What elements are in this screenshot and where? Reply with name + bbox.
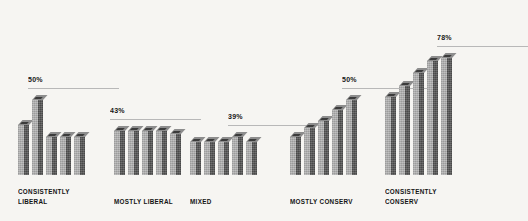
bar-right-face (162, 131, 167, 175)
bar-right-face (24, 125, 29, 175)
bar-right-face (405, 86, 410, 175)
bar-cluster (190, 0, 257, 175)
bar-right-face (296, 137, 301, 175)
bar-right-face (447, 58, 452, 175)
bar (427, 61, 438, 175)
bar-right-face (176, 134, 181, 175)
bar (218, 142, 229, 175)
category-label: MOSTLY LIBERAL (114, 197, 173, 207)
bar-right-face (134, 131, 139, 175)
bar (318, 121, 329, 175)
bar (304, 128, 315, 175)
value-label: 78% (437, 33, 452, 42)
bar-right-face (66, 137, 71, 175)
value-annotation: 50% (28, 68, 119, 89)
bar (346, 100, 357, 175)
bar (18, 125, 29, 175)
bar (128, 131, 139, 175)
bar-right-face (210, 142, 215, 175)
bar (246, 142, 257, 175)
bar-right-face (419, 73, 424, 175)
value-rule (110, 119, 201, 120)
value-label: 39% (228, 112, 243, 121)
bar-right-face (52, 137, 57, 175)
bar (385, 97, 396, 175)
bar (46, 137, 57, 175)
bar-right-face (238, 137, 243, 175)
value-rule (28, 88, 119, 89)
bar-right-face (38, 100, 43, 175)
bar-right-face (252, 142, 257, 175)
bar (190, 142, 201, 175)
bar-right-face (148, 131, 153, 175)
category-label: CONSISTENTLY CONSERV (385, 187, 437, 207)
bar (413, 73, 424, 175)
bar-cluster (114, 0, 181, 175)
bar (204, 142, 215, 175)
bar-right-face (391, 97, 396, 175)
value-annotation: 43% (110, 99, 201, 120)
bar-right-face (338, 110, 343, 175)
bar-right-face (196, 142, 201, 175)
bar-right-face (352, 100, 357, 175)
bar (170, 134, 181, 175)
bar-right-face (324, 121, 329, 175)
bar-right-face (310, 128, 315, 175)
bar (441, 58, 452, 175)
bar (32, 100, 43, 175)
bar (332, 110, 343, 175)
category-label: CONSISTENTLY LIBERAL (18, 187, 70, 207)
bar (290, 137, 301, 175)
bar (399, 86, 410, 175)
value-label: 50% (342, 75, 357, 84)
bar-right-face (80, 137, 85, 175)
category-label: MOSTLY CONSERV (290, 197, 353, 207)
bar-right-face (224, 142, 229, 175)
bar (74, 137, 85, 175)
bar (142, 131, 153, 175)
bar-right-face (120, 131, 125, 175)
bar-right-face (433, 61, 438, 175)
value-label: 50% (28, 75, 43, 84)
value-label: 43% (110, 106, 125, 115)
bar (60, 137, 71, 175)
bar (114, 131, 125, 175)
category-label: MIXED (190, 197, 212, 207)
bar (156, 131, 167, 175)
value-rule (437, 46, 528, 47)
value-annotation: 78% (437, 26, 528, 47)
bar (232, 137, 243, 175)
